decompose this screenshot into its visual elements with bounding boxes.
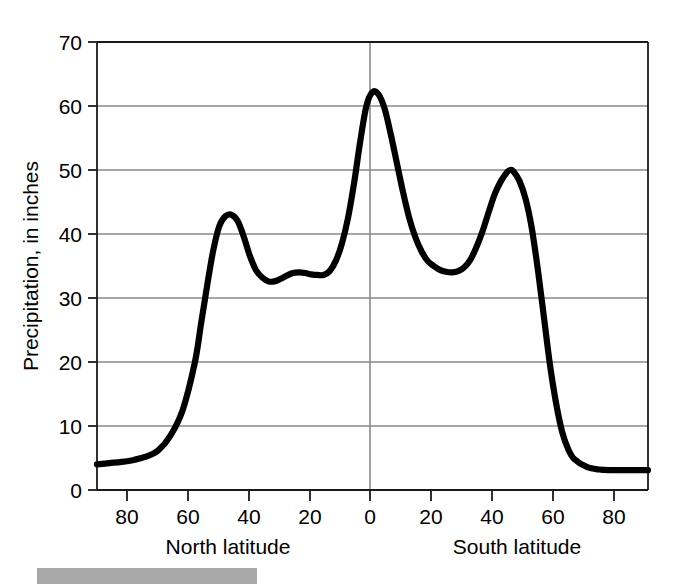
y-axis-ticks <box>88 42 97 490</box>
x-tick-label-40N: 40 <box>237 505 260 528</box>
chart-canvas: 70 60 50 40 30 20 10 0 Precipitation, in… <box>0 0 683 585</box>
y-tick-label-70: 70 <box>59 31 82 54</box>
y-tick-label-20: 20 <box>59 351 82 374</box>
x-axis-title-south: South latitude <box>453 535 581 558</box>
x-axis-ticks <box>127 490 614 501</box>
x-tick-label-20N: 20 <box>298 505 321 528</box>
y-axis-tick-labels: 70 60 50 40 30 20 10 0 <box>59 31 82 502</box>
y-tick-label-50: 50 <box>59 159 82 182</box>
x-axis-title-north: North latitude <box>166 535 291 558</box>
x-tick-label-80N: 80 <box>115 505 138 528</box>
y-tick-label-30: 30 <box>59 287 82 310</box>
y-axis-title: Precipitation, in inches <box>19 161 42 371</box>
gray-caption-bar <box>37 568 257 584</box>
x-tick-label-20S: 20 <box>419 505 442 528</box>
y-tick-label-60: 60 <box>59 95 82 118</box>
x-tick-label-60N: 60 <box>176 505 199 528</box>
precipitation-by-latitude-figure: 70 60 50 40 30 20 10 0 Precipitation, in… <box>0 0 683 585</box>
x-axis-tick-labels: 80 60 40 20 0 20 40 60 80 <box>115 505 625 528</box>
x-tick-label-60S: 60 <box>541 505 564 528</box>
x-tick-label-80S: 80 <box>602 505 625 528</box>
y-tick-label-0: 0 <box>70 479 82 502</box>
x-tick-label-0: 0 <box>364 505 376 528</box>
y-tick-label-10: 10 <box>59 415 82 438</box>
y-tick-label-40: 40 <box>59 223 82 246</box>
x-tick-label-40S: 40 <box>480 505 503 528</box>
